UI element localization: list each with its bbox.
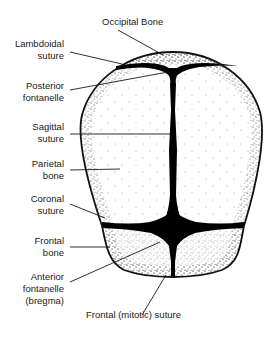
skull-diagram: Occipital Bone Lambdoidal suture Posteri…	[0, 0, 277, 340]
label-frontal-suture: Frontal (mitotic) suture	[86, 309, 181, 321]
label-anterior-fontanelle: Anterior fontanelle (bregma)	[23, 271, 64, 307]
label-frontal-bone: Frontal bone	[34, 235, 64, 259]
label-occipital-bone: Occipital Bone	[102, 16, 163, 28]
label-sagittal-suture: Sagittal suture	[32, 121, 64, 145]
label-coronal-suture: Coronal suture	[31, 193, 64, 217]
label-parietal-bone: Parietal bone	[32, 158, 64, 182]
label-lambdoidal-suture: Lambdoidal suture	[15, 38, 64, 62]
label-posterior-fontanelle: Posterior fontanelle	[23, 80, 64, 104]
